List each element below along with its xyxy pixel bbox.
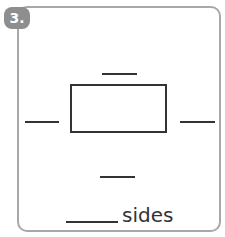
top-side-blank[interactable] xyxy=(102,73,137,75)
bottom-side-blank[interactable] xyxy=(100,176,135,178)
sides-answer: sides xyxy=(66,198,173,228)
sides-count-blank[interactable] xyxy=(66,221,118,223)
exercise-number-badge: 3. xyxy=(4,7,30,29)
sides-label: sides xyxy=(122,202,173,228)
right-side-blank[interactable] xyxy=(180,121,215,123)
rectangle-shape xyxy=(70,84,167,133)
left-side-blank[interactable] xyxy=(25,121,59,123)
